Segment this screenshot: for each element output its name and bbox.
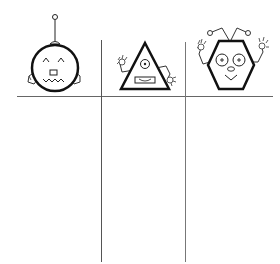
column-3-area	[186, 97, 273, 264]
column-1-area	[17, 97, 101, 264]
column-2-area	[102, 97, 185, 264]
round-robot-icon	[22, 10, 82, 94]
triangle-robot-icon	[112, 40, 182, 94]
hexagon-robot-icon	[196, 22, 276, 94]
sorting-worksheet	[0, 0, 280, 264]
